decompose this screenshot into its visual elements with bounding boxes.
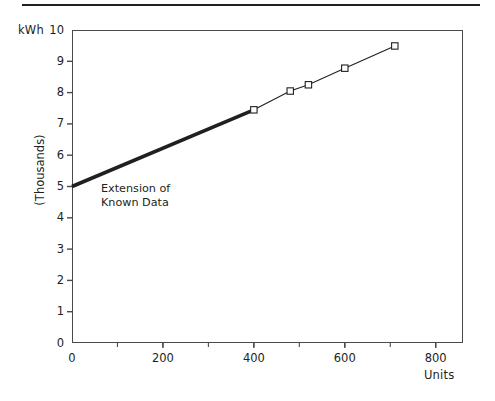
series-extension-line [72, 110, 254, 187]
chart-annotation-extension-of-known-data: Extension of Known Data [101, 182, 170, 210]
series-known-data-line [254, 46, 395, 110]
plot-canvas [0, 0, 495, 401]
chart-figure: kWh Units (Thousands) 012345678910 02004… [0, 0, 495, 401]
